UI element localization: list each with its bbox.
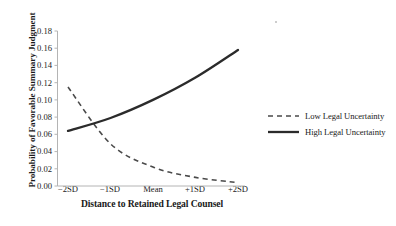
series-line-high-legal-uncertainty — [68, 50, 238, 131]
solid-line-icon — [268, 127, 299, 137]
legend-item-high-legal-uncertainty: High Legal Uncertainty — [268, 124, 394, 140]
legend-item-low-legal-uncertainty: Low Legal Uncertainty — [268, 108, 394, 124]
chart-legend: Low Legal Uncertainty High Legal Uncerta… — [268, 108, 394, 140]
legend-label: Low Legal Uncertainty — [305, 111, 384, 121]
scan-speck — [275, 21, 277, 23]
series-line-low-legal-uncertainty — [68, 87, 238, 183]
dashed-line-icon — [268, 111, 299, 121]
legend-label: High Legal Uncertainty — [305, 127, 386, 137]
chart-figure: Probability of Favorable Summary Judgmen… — [0, 0, 396, 226]
